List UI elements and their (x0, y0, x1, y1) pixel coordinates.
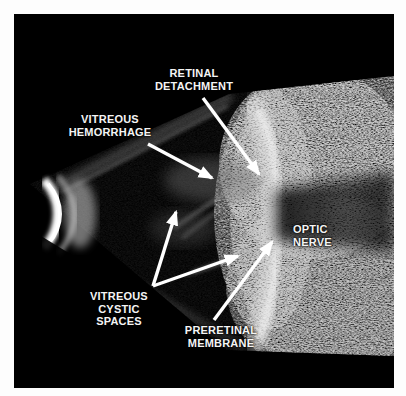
annotation-arrows-layer (14, 14, 394, 388)
arrow-vitreous-cystic-1 (153, 212, 176, 286)
ultrasound-image-plate: RETINAL DETACHMENT VITREOUS HEMORRHAGE O… (14, 14, 394, 388)
figure-page: RETINAL DETACHMENT VITREOUS HEMORRHAGE O… (0, 0, 406, 396)
arrow-vitreous-cystic-2 (153, 256, 238, 286)
arrow-retinal-detachment (203, 98, 259, 174)
arrow-preretinal-membrane (214, 242, 272, 320)
arrow-vitreous-hemorrhage (148, 144, 212, 178)
